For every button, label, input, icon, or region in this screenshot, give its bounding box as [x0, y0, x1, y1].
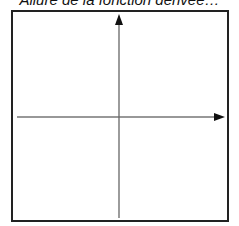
plot-frame [12, 11, 228, 221]
x-axis-arrow-icon [214, 113, 225, 121]
axes-diagram [0, 0, 239, 226]
y-axis-arrow-icon [115, 14, 123, 25]
